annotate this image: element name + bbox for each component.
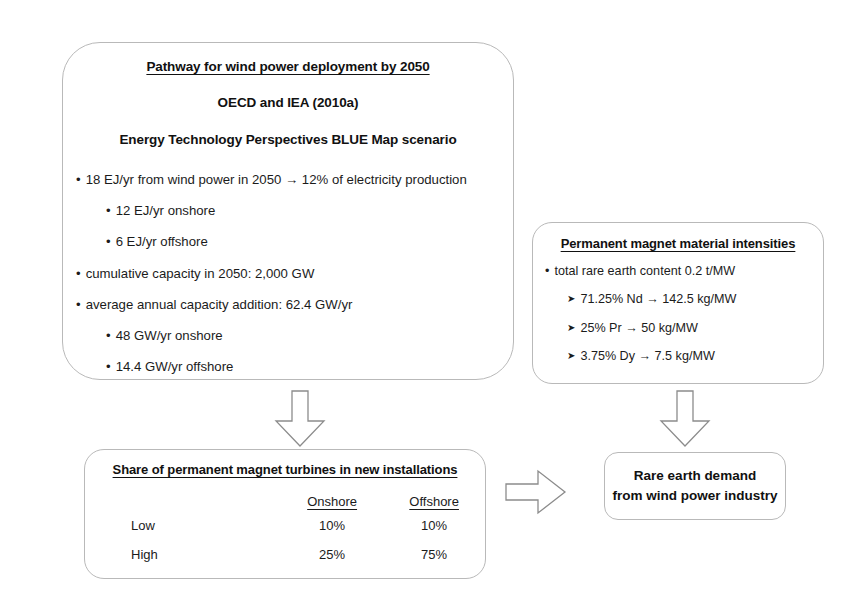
arrow-right-to-result-icon <box>505 468 567 516</box>
row-label-high: High <box>85 540 281 569</box>
flow-diagram: Pathway for wind power deployment by 205… <box>0 0 859 616</box>
pathway-box-subtitle-scenario: Energy Technology Perspectives BLUE Map … <box>63 132 513 147</box>
table-header-row: Onshore Offshore <box>85 487 485 511</box>
cell-low-onshore: 10% <box>281 511 383 540</box>
cell-high-offshore: 75% <box>383 540 485 569</box>
table-row: High 25% 75% <box>85 540 485 569</box>
bullet-item: total rare earth content 0.2 t/MW <box>545 264 823 278</box>
cell-high-onshore: 25% <box>281 540 383 569</box>
arrow-down-to-share-icon <box>272 390 328 448</box>
bullet-dot-icon <box>106 234 111 249</box>
share-of-turbines-box: Share of permanent magnet turbines in ne… <box>84 449 486 579</box>
bullet-item: 14.4 GW/yr offshore <box>76 359 513 374</box>
bullet-item: 18 EJ/yr from wind power in 2050 → 12% o… <box>76 172 513 187</box>
cell-low-offshore: 10% <box>383 511 485 540</box>
bullet-text: average annual capacity addition: 62.4 G… <box>86 297 353 312</box>
bullet-item: 3.75% Dy → 7.5 kg/MW <box>545 349 823 363</box>
bullet-item: 71.25% Nd → 142.5 kg/MW <box>545 292 823 306</box>
bullet-text: 3.75% Dy → 7.5 kg/MW <box>580 349 714 363</box>
bullet-text: total rare earth content 0.2 t/MW <box>554 264 735 278</box>
share-table: Onshore Offshore Low 10% 10% High 25% 75… <box>85 487 485 569</box>
result-box-text: Rare earth demand from wind power indust… <box>605 466 785 505</box>
row-label-low: Low <box>85 511 281 540</box>
bullet-dot-icon <box>76 297 81 312</box>
bullet-dot-icon <box>106 328 111 343</box>
arrowhead-bullet-icon <box>567 349 575 363</box>
pathway-box-subtitle-source: OECD and IEA (2010a) <box>63 95 513 110</box>
bullet-text: 25% Pr → 50 kg/MW <box>580 321 698 335</box>
share-box-title: Share of permanent magnet turbines in ne… <box>85 462 485 477</box>
bullet-text: 14.4 GW/yr offshore <box>116 359 234 374</box>
column-header-offshore: Offshore <box>383 487 485 511</box>
table-corner-cell <box>85 487 281 511</box>
bullet-dot-icon <box>76 172 81 187</box>
bullet-dot-icon <box>106 359 111 374</box>
result-box: Rare earth demand from wind power indust… <box>604 452 786 520</box>
bullet-item: average annual capacity addition: 62.4 G… <box>76 297 513 312</box>
pathway-bullet-list: 18 EJ/yr from wind power in 2050 → 12% o… <box>63 172 513 374</box>
bullet-text: 48 GW/yr onshore <box>116 328 223 343</box>
pathway-box-title: Pathway for wind power deployment by 205… <box>63 59 513 74</box>
bullet-text: 71.25% Nd → 142.5 kg/MW <box>580 292 736 306</box>
arrowhead-bullet-icon <box>567 321 575 335</box>
bullet-dot-icon <box>106 203 111 218</box>
bullet-text: cumulative capacity in 2050: 2,000 GW <box>86 266 315 281</box>
bullet-item: 48 GW/yr onshore <box>76 328 513 343</box>
bullet-text: 12 EJ/yr onshore <box>116 203 216 218</box>
arrow-down-to-result-icon <box>657 390 713 448</box>
bullet-text: 6 EJ/yr offshore <box>116 234 208 249</box>
result-line-2: from wind power industry <box>612 488 777 503</box>
pathway-box: Pathway for wind power deployment by 205… <box>62 42 514 380</box>
share-table-head: Onshore Offshore <box>85 487 485 511</box>
bullet-dot-icon <box>545 264 549 278</box>
bullet-item: 12 EJ/yr onshore <box>76 203 513 218</box>
column-header-onshore: Onshore <box>281 487 383 511</box>
result-line-1: Rare earth demand <box>634 468 756 483</box>
bullet-dot-icon <box>76 266 81 281</box>
arrowhead-bullet-icon <box>567 292 575 306</box>
magnet-bullet-list: total rare earth content 0.2 t/MW 71.25%… <box>533 264 823 364</box>
bullet-text: 18 EJ/yr from wind power in 2050 → 12% o… <box>86 172 467 187</box>
bullet-item: cumulative capacity in 2050: 2,000 GW <box>76 266 513 281</box>
share-table-body: Low 10% 10% High 25% 75% <box>85 511 485 569</box>
permanent-magnet-box: Permanent magnet material intensities to… <box>532 222 824 384</box>
bullet-item: 6 EJ/yr offshore <box>76 234 513 249</box>
bullet-item: 25% Pr → 50 kg/MW <box>545 321 823 335</box>
magnet-box-title: Permanent magnet material intensities <box>533 236 823 251</box>
table-row: Low 10% 10% <box>85 511 485 540</box>
